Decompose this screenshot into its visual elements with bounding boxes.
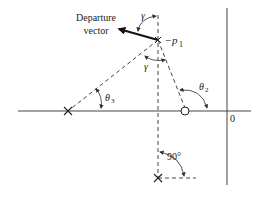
pole-p1-label: − p 1 [165,34,183,49]
ninety-degree-label: 90° [167,151,181,162]
departure-label-line1: Departure [76,12,117,23]
line-to-zero [158,40,185,108]
departure-label-line2: vector [84,25,110,36]
svg-text:θ: θ [199,81,204,92]
root-locus-diagram: 0 Departure vector γ γ − p 1 θ 2 θ 3 90° [0,0,261,197]
svg-text:3: 3 [111,97,115,105]
theta2-label: θ 2 [199,81,209,94]
gamma-bottom-label: γ [144,61,149,72]
theta3-arc [96,89,101,108]
svg-text:1: 1 [179,40,183,49]
gamma-bottom-arc [145,56,165,61]
origin-label: 0 [230,113,235,124]
svg-text:p: p [171,34,178,46]
svg-text:2: 2 [205,86,209,94]
angle-arcs [96,16,207,176]
svg-text:−: − [165,34,171,46]
svg-text:θ: θ [105,92,110,103]
zero-marker [181,107,189,115]
theta3-label: θ 3 [105,92,115,105]
